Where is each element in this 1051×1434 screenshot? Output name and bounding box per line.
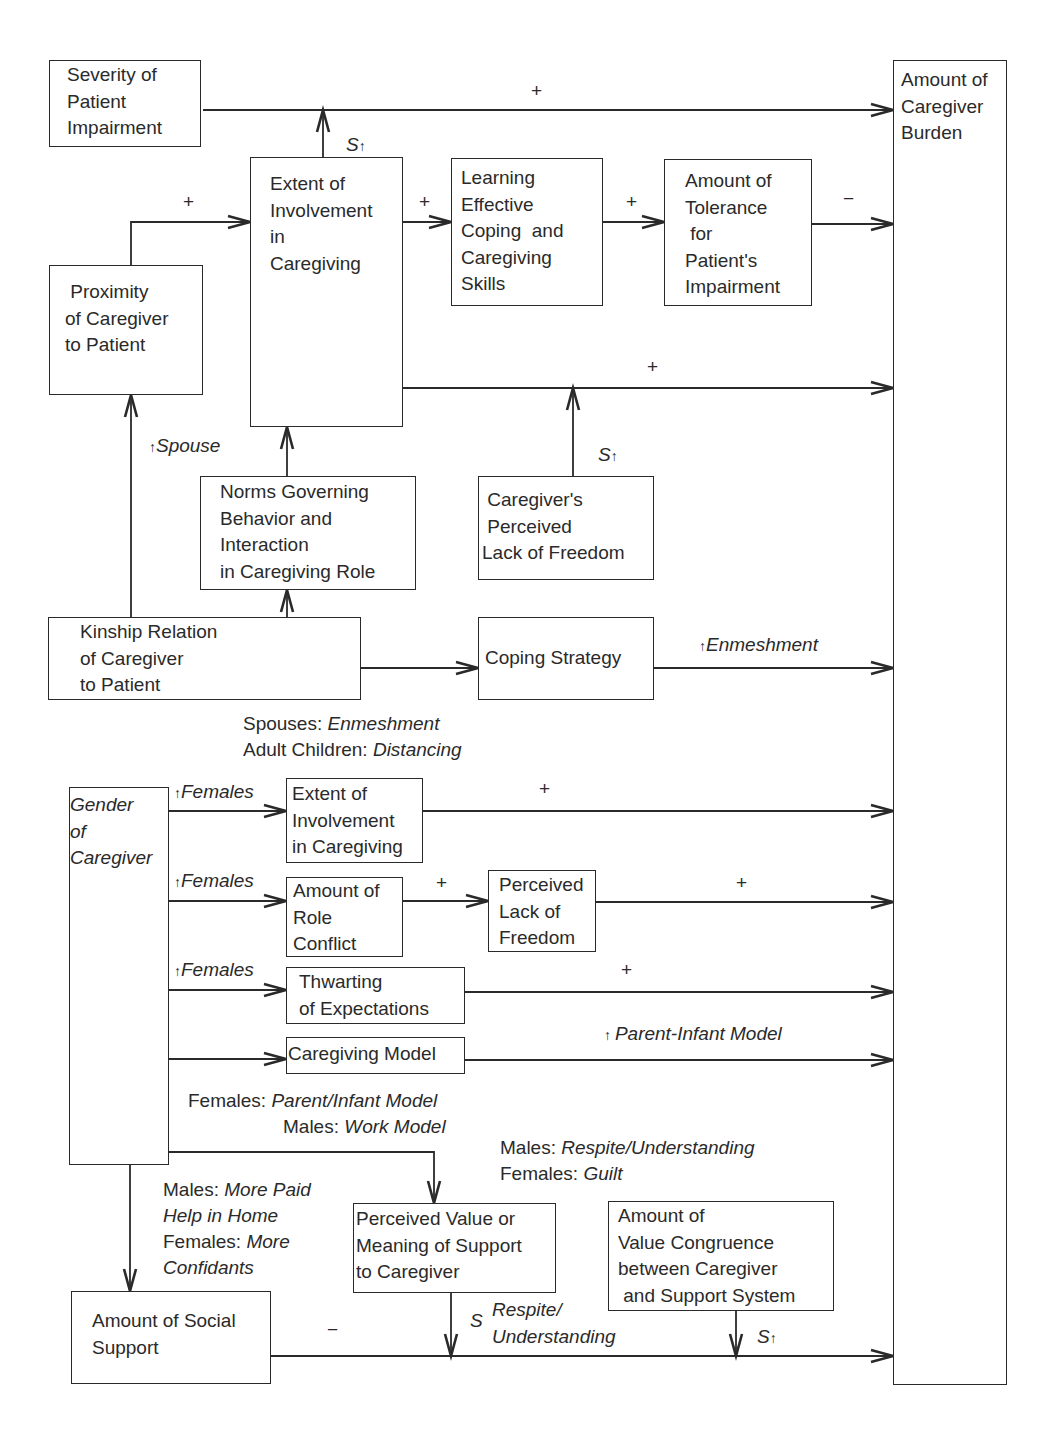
node-label: Perceived Value or Meaning of Support to…: [356, 1206, 522, 1286]
annotation-support-note-1: Males: More Paid: [163, 1177, 311, 1203]
up-arrow-icon: ↑: [611, 448, 618, 464]
annotation-text: Spouse: [156, 435, 220, 456]
annotation-text: Understanding: [492, 1326, 616, 1347]
annotation-text: More: [246, 1231, 289, 1252]
annotation-females-1: ↑Females: [174, 779, 254, 806]
positive-sign: +: [419, 191, 430, 213]
annotation-text: Enmeshment: [706, 634, 818, 655]
up-arrow-icon: ↑: [174, 874, 181, 890]
node-label: Amount of Value Congruence between Careg…: [618, 1203, 795, 1309]
annotation-text: S: [598, 444, 611, 465]
annotation-text: Adult Children:: [243, 739, 373, 760]
annotation-kinship-note-2: Adult Children: Distancing: [243, 737, 462, 763]
annotation-kinship-note-1: Spouses: Enmeshment: [243, 711, 439, 737]
annotation-text: Parent/Infant Model: [271, 1090, 437, 1111]
annotation-s-up-1: S↑: [346, 132, 366, 159]
node-label: Learning Effective Coping and Caregiving…: [461, 165, 563, 298]
annotation-text: Females:: [500, 1163, 583, 1184]
node-label: Gender of Caregiver: [70, 792, 152, 872]
annotation-support-note-4: Confidants: [163, 1255, 254, 1281]
annotation-text: Work Model: [344, 1116, 445, 1137]
annotation-s-respite: S: [470, 1308, 483, 1334]
annotation-respite-1: Respite/: [492, 1297, 562, 1323]
annotation-text: Females:: [163, 1231, 246, 1252]
annotation-s-up-2: S↑: [598, 442, 618, 469]
node-label: Caregiving Model: [288, 1041, 436, 1068]
node-label: Amount of Role Conflict: [293, 878, 380, 958]
up-arrow-icon: ↑: [604, 1027, 615, 1043]
annotation-model-note-2: Males: Work Model: [283, 1114, 446, 1140]
annotation-text: Males:: [163, 1179, 224, 1200]
annotation-respite-note-1: Males: Respite/Understanding: [500, 1135, 755, 1161]
annotation-respite-note-2: Females: Guilt: [500, 1161, 623, 1187]
node-burden: [893, 60, 1007, 1385]
positive-sign: +: [736, 872, 747, 894]
node-label: Extent of Involvement in Caregiving: [292, 781, 403, 861]
annotation-text: Distancing: [373, 739, 462, 760]
annotation-text: Respite/: [492, 1299, 562, 1320]
up-arrow-icon: ↑: [770, 1330, 777, 1346]
node-label: Caregiver's Perceived Lack of Freedom: [482, 487, 625, 567]
negative-sign: −: [327, 1319, 338, 1341]
node-label: Proximity of Caregiver to Patient: [65, 279, 169, 359]
up-arrow-icon: ↑: [174, 963, 181, 979]
annotation-model-note-1: Females: Parent/Infant Model: [188, 1088, 437, 1114]
annotation-text: Parent-Infant Model: [615, 1023, 782, 1044]
annotation-parent-infant: ↑ Parent-Infant Model: [604, 1021, 782, 1048]
annotation-spouse: ↑Spouse: [149, 433, 220, 460]
node-label: Norms Governing Behavior and Interaction…: [220, 479, 375, 585]
node-label: Thwarting of Expectations: [299, 969, 429, 1022]
node-label: Perceived Lack of Freedom: [499, 872, 584, 952]
annotation-text: Guilt: [583, 1163, 622, 1184]
annotation-text: Spouses:: [243, 713, 328, 734]
positive-sign: +: [626, 191, 637, 213]
annotation-text: Respite/Understanding: [561, 1137, 754, 1158]
annotation-text: Females: [181, 959, 254, 980]
annotation-text: Females: [181, 870, 254, 891]
annotation-respite-2: Understanding: [492, 1324, 616, 1350]
positive-sign: +: [183, 191, 194, 213]
node-label: Kinship Relation of Caregiver to Patient: [80, 619, 217, 699]
node-label: Amount of Caregiver Burden: [901, 67, 988, 147]
annotation-text: Confidants: [163, 1257, 254, 1278]
connector-line: [131, 222, 250, 265]
positive-sign: +: [621, 959, 632, 981]
positive-sign: +: [647, 356, 658, 378]
up-arrow-icon: ↑: [699, 638, 706, 654]
annotation-females-2: ↑Females: [174, 868, 254, 895]
annotation-text: Enmeshment: [328, 713, 440, 734]
node-label: Extent of Involvement in Caregiving: [270, 171, 372, 277]
annotation-text: S: [346, 134, 359, 155]
annotation-text: Help in Home: [163, 1205, 278, 1226]
up-arrow-icon: ↑: [174, 785, 181, 801]
positive-sign: +: [436, 872, 447, 894]
positive-sign: +: [539, 778, 550, 800]
annotation-support-note-2: Help in Home: [163, 1203, 278, 1229]
up-arrow-icon: ↑: [149, 439, 156, 455]
node-label: Severity of Patient Impairment: [67, 62, 162, 142]
negative-sign: −: [843, 188, 854, 210]
annotation-text: Females:: [188, 1090, 271, 1111]
annotation-text: S: [470, 1310, 483, 1331]
annotation-s-up-3: S↑: [757, 1324, 777, 1351]
annotation-text: Males:: [283, 1116, 344, 1137]
annotation-text: Females: [181, 781, 254, 802]
up-arrow-icon: ↑: [359, 138, 366, 154]
annotation-text: S: [757, 1326, 770, 1347]
annotation-females-3: ↑Females: [174, 957, 254, 984]
annotation-text: Males:: [500, 1137, 561, 1158]
node-label: Amount of Tolerance for Patient's Impair…: [685, 168, 780, 301]
annotation-text: More Paid: [224, 1179, 311, 1200]
node-label: Coping Strategy: [485, 645, 621, 672]
caregiver-burden-diagram: Severity of Patient ImpairmentExtent of …: [0, 0, 1051, 1434]
annotation-enmeshment: ↑Enmeshment: [699, 632, 818, 659]
annotation-support-note-3: Females: More: [163, 1229, 290, 1255]
node-label: Amount of Social Support: [92, 1308, 236, 1361]
positive-sign: +: [531, 80, 542, 102]
